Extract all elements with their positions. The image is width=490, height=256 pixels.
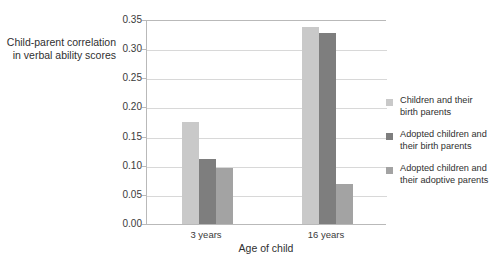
- y-axis-tick-label: 0.25: [110, 73, 142, 83]
- bar: [182, 122, 199, 224]
- bar-chart: Child-parent correlation in verbal abili…: [0, 0, 490, 256]
- y-axis-tick-label: 0.15: [110, 132, 142, 142]
- legend-label: Adopted children and: [400, 129, 490, 141]
- y-axis-title-line-2: in verbal ability scores: [0, 49, 116, 62]
- bar-group: [182, 20, 233, 224]
- legend-item: Adopted children andtheir birth parents: [386, 129, 490, 152]
- legend-label: their birth parents: [400, 141, 490, 153]
- bar: [216, 168, 233, 224]
- legend-label: their adoptive parents: [400, 175, 490, 187]
- bar: [336, 184, 353, 224]
- bar: [302, 27, 319, 224]
- y-axis-tick-label: 0.00: [110, 219, 142, 229]
- bar: [199, 159, 216, 224]
- y-axis-tick-label: 0.10: [110, 161, 142, 171]
- x-axis-line: [146, 224, 386, 225]
- x-axis-tick-label: 16 years: [281, 229, 371, 240]
- legend-label: Adopted children and: [400, 163, 490, 175]
- y-axis-tick-label: 0.05: [110, 190, 142, 200]
- bar: [319, 33, 336, 224]
- legend-swatch: [386, 99, 393, 106]
- x-axis-title: Age of child: [146, 242, 386, 254]
- legend-swatch: [386, 133, 393, 140]
- y-axis-title: Child-parent correlation in verbal abili…: [0, 36, 116, 62]
- y-axis-tick-label: 0.35: [110, 15, 142, 25]
- legend-label: birth parents: [400, 107, 490, 119]
- bar-group: [302, 20, 353, 224]
- y-axis-tick-label: 0.20: [110, 102, 142, 112]
- plot-area: [146, 20, 386, 224]
- y-axis-title-line-1: Child-parent correlation: [0, 36, 116, 49]
- y-axis-tick-label: 0.30: [110, 44, 142, 54]
- legend-swatch: [386, 167, 393, 174]
- legend-label: Children and their: [400, 95, 490, 107]
- legend: Children and theirbirth parentsAdopted c…: [386, 95, 490, 197]
- legend-item: Adopted children andtheir adoptive paren…: [386, 163, 490, 186]
- x-axis-tick-label: 3 years: [161, 229, 251, 240]
- legend-item: Children and theirbirth parents: [386, 95, 490, 118]
